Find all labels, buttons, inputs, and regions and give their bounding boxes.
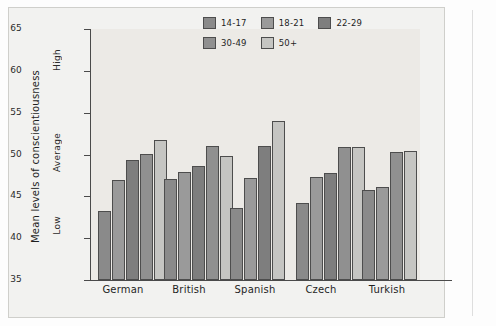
y-axis-band-label: Low bbox=[52, 216, 62, 235]
bar bbox=[338, 147, 351, 280]
y-axis-band-label: High bbox=[52, 49, 62, 71]
bar bbox=[164, 179, 177, 280]
bar bbox=[258, 146, 271, 280]
y-axis-tick bbox=[84, 238, 90, 239]
y-axis-tick-label: 40 bbox=[0, 232, 22, 242]
y-axis-tick-label: 55 bbox=[0, 107, 22, 117]
x-axis-category-label: Turkish bbox=[354, 284, 420, 295]
legend-label: 30-49 bbox=[221, 38, 247, 48]
x-axis-category-label: German bbox=[90, 284, 156, 295]
legend-item[interactable]: 14-17 bbox=[203, 17, 247, 29]
bar-group bbox=[164, 29, 234, 280]
bar bbox=[230, 208, 243, 280]
bar-group bbox=[362, 29, 418, 280]
bar bbox=[310, 177, 323, 280]
bar bbox=[112, 180, 125, 280]
bar bbox=[296, 203, 309, 280]
legend-label: 50+ bbox=[279, 38, 298, 48]
y-axis-tick bbox=[84, 280, 90, 281]
legend-item[interactable]: 22-29 bbox=[318, 17, 362, 29]
bar bbox=[404, 151, 417, 280]
bar bbox=[362, 190, 375, 280]
bar bbox=[126, 160, 139, 280]
y-axis-tick-label: 65 bbox=[0, 23, 22, 33]
bar-group bbox=[296, 29, 366, 280]
legend-item[interactable]: 30-49 bbox=[203, 37, 247, 49]
chart-page: Mean levels of conscientiousness 3540455… bbox=[0, 0, 496, 326]
legend-label: 14-17 bbox=[221, 18, 247, 28]
legend-label: 22-29 bbox=[336, 18, 362, 28]
legend-row-1: 14-1718-2122-29 bbox=[203, 17, 418, 29]
bar-group bbox=[230, 29, 286, 280]
y-axis-band-label: Average bbox=[52, 133, 62, 172]
bar bbox=[140, 154, 153, 280]
y-axis-tick-label: 35 bbox=[0, 274, 22, 284]
y-axis-tick bbox=[84, 196, 90, 197]
legend-swatch-icon bbox=[261, 37, 274, 49]
x-axis-line bbox=[90, 280, 452, 281]
bar-groups bbox=[91, 29, 420, 280]
y-axis-tick bbox=[84, 113, 90, 114]
bar-chart: Mean levels of conscientiousness 3540455… bbox=[8, 7, 445, 318]
chart-legend: 14-1718-2122-29 30-4950+ bbox=[203, 17, 418, 57]
legend-swatch-icon bbox=[318, 17, 331, 29]
page-gutter-rule bbox=[472, 10, 473, 316]
legend-item[interactable]: 50+ bbox=[261, 37, 298, 49]
legend-row-2: 30-4950+ bbox=[203, 37, 418, 49]
bar bbox=[178, 172, 191, 280]
bar bbox=[272, 121, 285, 280]
bar-group bbox=[98, 29, 168, 280]
x-axis-category-label: Czech bbox=[288, 284, 354, 295]
x-axis-category-label: British bbox=[156, 284, 222, 295]
bar bbox=[244, 178, 257, 280]
bar bbox=[98, 211, 111, 280]
y-axis-tick bbox=[84, 29, 90, 30]
bar bbox=[376, 187, 389, 280]
y-axis-tick-label: 50 bbox=[0, 149, 22, 159]
x-axis-category-label: Spanish bbox=[222, 284, 288, 295]
bar bbox=[390, 152, 403, 280]
bar bbox=[206, 146, 219, 280]
y-axis-tick bbox=[84, 155, 90, 156]
y-axis-tick bbox=[84, 71, 90, 72]
legend-label: 18-21 bbox=[279, 18, 305, 28]
legend-swatch-icon bbox=[261, 17, 274, 29]
legend-item[interactable]: 18-21 bbox=[261, 17, 305, 29]
legend-swatch-icon bbox=[203, 17, 216, 29]
bar bbox=[324, 173, 337, 280]
bar bbox=[192, 166, 205, 280]
y-axis-title: Mean levels of conscientiousness bbox=[30, 43, 41, 269]
y-axis-tick-label: 60 bbox=[0, 65, 22, 75]
y-axis-tick-label: 45 bbox=[0, 190, 22, 200]
legend-swatch-icon bbox=[203, 37, 216, 49]
